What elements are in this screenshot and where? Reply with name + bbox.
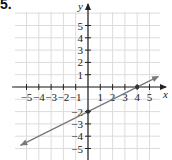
svg-text:−2: −2 <box>58 91 70 103</box>
svg-text:−4: −4 <box>33 91 45 103</box>
y-axis-label: y <box>77 0 83 12</box>
svg-text:5: 5 <box>147 91 153 103</box>
svg-text:5: 5 <box>78 20 84 32</box>
svg-text:2: 2 <box>78 56 84 68</box>
svg-text:4: 4 <box>78 32 84 44</box>
svg-text:1: 1 <box>98 91 104 103</box>
svg-text:−4: −4 <box>71 130 83 142</box>
svg-text:−3: −3 <box>45 91 57 103</box>
svg-text:2: 2 <box>110 91 116 103</box>
svg-text:−5: −5 <box>21 91 33 103</box>
svg-text:1: 1 <box>78 69 84 81</box>
svg-text:−1: −1 <box>70 91 82 103</box>
svg-text:4: 4 <box>134 91 140 103</box>
coordinate-graph: −5−4−3−2−11234554321−2−3−4−5 x y <box>0 0 172 160</box>
svg-text:−2: −2 <box>71 106 83 118</box>
x-axis-label: x <box>162 88 168 100</box>
svg-text:−5: −5 <box>71 143 83 155</box>
svg-text:3: 3 <box>78 44 84 56</box>
